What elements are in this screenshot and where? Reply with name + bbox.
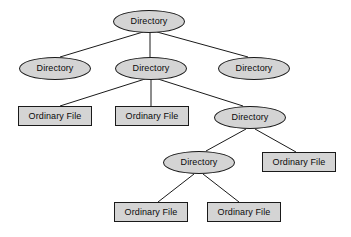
directory-node[interactable]: Directory	[113, 10, 185, 33]
ordinary-file-node[interactable]: Ordinary File	[18, 106, 92, 126]
directory-node[interactable]: Directory	[163, 151, 235, 174]
node-label: Directory	[232, 113, 269, 122]
ordinary-file-node[interactable]: Ordinary File	[115, 106, 189, 126]
node-label: Ordinary File	[126, 112, 179, 121]
directory-node[interactable]: Directory	[218, 57, 290, 80]
tree-edge	[158, 174, 194, 202]
tree-edge	[158, 79, 243, 106]
node-label: Ordinary File	[125, 208, 178, 217]
node-label: Directory	[133, 64, 170, 73]
directory-node[interactable]: Directory	[214, 106, 286, 129]
tree-edge	[60, 32, 143, 57]
node-label: Ordinary File	[218, 208, 271, 217]
tree-edge	[255, 129, 296, 152]
tree-edge	[206, 129, 246, 151]
ordinary-file-node[interactable]: Ordinary File	[207, 202, 281, 222]
ordinary-file-node[interactable]: Ordinary File	[262, 152, 336, 172]
node-label: Directory	[131, 17, 168, 26]
node-label: Directory	[37, 64, 74, 73]
tree-edge	[203, 174, 239, 202]
ordinary-file-node[interactable]: Ordinary File	[114, 202, 188, 222]
node-label: Directory	[181, 158, 218, 167]
node-label: Directory	[236, 64, 273, 73]
tree-edge	[157, 32, 248, 57]
node-label: Ordinary File	[29, 112, 82, 121]
diagram-canvas: DirectoryDirectoryDirectoryDirectoryOrdi…	[0, 0, 351, 237]
directory-node[interactable]: Directory	[115, 57, 187, 80]
tree-edge	[60, 79, 145, 106]
directory-node[interactable]: Directory	[19, 57, 91, 80]
node-label: Ordinary File	[273, 158, 326, 167]
